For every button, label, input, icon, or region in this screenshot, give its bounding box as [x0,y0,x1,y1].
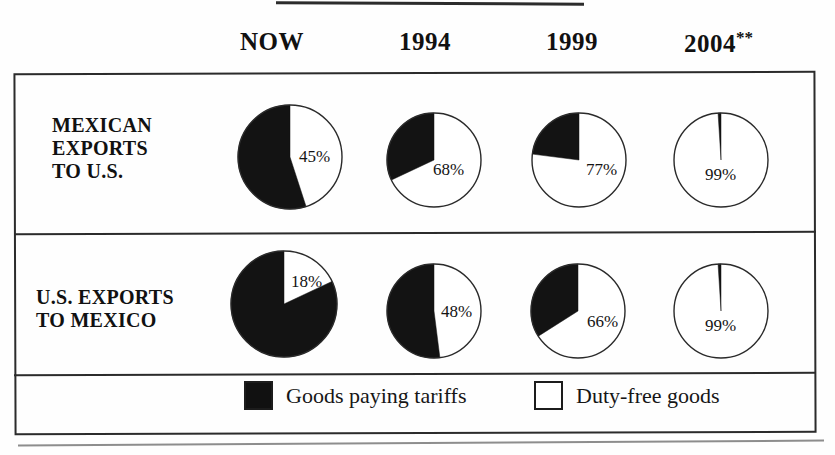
column-header-label: NOW [240,28,304,55]
pie-percent-label-r1-c1: 48% [441,303,472,320]
page-bottom-edge [18,440,824,447]
legend-swatch-filled-icon [244,381,273,410]
top-rule-divider [276,1,584,5]
pie-chart-r1-c0 [228,248,340,360]
pie-percent-label-r0-c1: 68% [433,161,464,178]
pie-percent-label-r0-c0: 45% [299,148,330,165]
legend-item-goods-paying-tariffs: Goods paying tariffs [244,381,466,410]
pie-slice-goods-paying-tariffs [532,113,579,160]
pie-slice-goods-paying-tariffs [387,264,440,358]
column-header-1994: 1994 [399,28,451,56]
column-header-label: 1994 [399,28,451,55]
column-header-2004: 2004** [684,28,753,58]
column-header-now: NOW [240,28,304,56]
pie-percent-label-r1-c2: 66% [587,313,618,330]
legend-swatch-hollow-icon [534,381,563,410]
footnote-asterisks: ** [736,28,753,47]
column-header-label: 2004 [684,30,736,57]
column-header-1999: 1999 [546,28,598,56]
pie-chart-r0-c3 [671,110,771,210]
pie-chart-r1-c2 [528,261,628,361]
pie-percent-label-r1-c0: 18% [291,273,322,290]
row-label-us-exports-to-mexico: U.S. EXPORTS TO MEXICO [36,286,174,332]
legend-label-duty-free-goods: Duty-free goods [576,383,720,409]
pie-percent-label-r0-c2: 77% [586,161,617,178]
legend-item-duty-free-goods: Duty-free goods [534,381,720,410]
pie-percent-label-r0-c3: 99% [705,166,736,183]
legend: Goods paying tariffs Duty-free goods [0,381,835,427]
legend-label-goods-paying-tariffs: Goods paying tariffs [286,383,466,409]
column-header-row: NOW199419992004** [0,28,835,66]
row-label-mexican-exports-to-us: MEXICAN EXPORTS TO U.S. [52,114,152,183]
pie-chart-r1-c3 [671,261,771,361]
pie-percent-label-r1-c3: 99% [705,317,736,334]
column-header-label: 1999 [546,28,598,55]
